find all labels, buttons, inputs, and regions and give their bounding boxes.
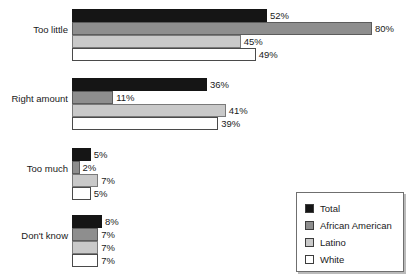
bar-don-t-know-total[interactable] <box>72 215 102 228</box>
legend-label: Latino <box>320 237 346 248</box>
bar-too-much-white[interactable] <box>72 187 91 200</box>
bar-value-label: 49% <box>256 48 278 61</box>
legend-item-white[interactable]: White <box>305 251 344 268</box>
legend-label: African American <box>320 220 392 231</box>
bar-value-label: 11% <box>113 91 134 104</box>
chart-title-cropped <box>0 0 411 6</box>
bar-value-label: 39% <box>218 117 240 130</box>
legend-item-latino[interactable]: Latino <box>305 234 346 251</box>
bar-value-label: 45% <box>241 35 263 48</box>
bar-value-label: 7% <box>98 228 115 241</box>
category-label-right-amount: Right amount <box>0 93 68 104</box>
bar-value-label: 7% <box>98 254 115 267</box>
bar-value-label: 5% <box>91 187 108 200</box>
bar-row: 39% <box>72 117 411 130</box>
legend-swatch-icon-white <box>305 255 314 264</box>
bar-value-label: 5% <box>91 148 108 161</box>
bar-row: 41% <box>72 104 411 117</box>
bar-row: 11% <box>72 91 411 104</box>
bar-too-little-latino[interactable] <box>72 35 241 48</box>
bar-value-label: 80% <box>372 22 394 35</box>
bar-row: 5% <box>72 148 411 161</box>
legend-label: Total <box>320 203 340 214</box>
bar-value-label: 36% <box>207 78 229 91</box>
bar-don-t-know-white[interactable] <box>72 254 98 267</box>
bar-too-little-total[interactable] <box>72 9 267 22</box>
bar-value-label: 7% <box>98 174 115 187</box>
chart-legend: TotalAfrican AmericanLatinoWhite <box>296 192 404 272</box>
category-label-too-much: Too much <box>0 163 68 174</box>
bar-right-amount-latino[interactable] <box>72 104 226 117</box>
bar-chart: Too little52%80%45%49%Right amount36%11%… <box>0 0 411 279</box>
legend-label: White <box>320 254 344 265</box>
bar-row: 36% <box>72 78 411 91</box>
legend-item-african-american[interactable]: African American <box>305 217 392 234</box>
bar-too-much-latino[interactable] <box>72 174 98 187</box>
bar-don-t-know-latino[interactable] <box>72 241 98 254</box>
bar-value-label: 8% <box>102 215 119 228</box>
legend-swatch-icon-latino <box>305 238 314 247</box>
bar-row: 49% <box>72 48 411 61</box>
bar-row: 80% <box>72 22 411 35</box>
bar-value-label: 41% <box>226 104 248 117</box>
legend-swatch-icon-african-american <box>305 221 314 230</box>
bar-value-label: 2% <box>80 161 97 174</box>
bar-don-t-know-african-american[interactable] <box>72 228 98 241</box>
bar-value-label: 52% <box>267 9 289 22</box>
bar-row: 52% <box>72 9 411 22</box>
bar-too-little-white[interactable] <box>72 48 256 61</box>
category-label-don-t-know: Don't know <box>0 230 68 241</box>
legend-item-total[interactable]: Total <box>305 200 340 217</box>
bar-too-little-african-american[interactable] <box>72 22 372 35</box>
bar-right-amount-african-american[interactable] <box>72 91 113 104</box>
bar-row: 45% <box>72 35 411 48</box>
category-label-too-little: Too little <box>0 24 68 35</box>
bar-too-much-african-american[interactable] <box>72 161 80 174</box>
bar-right-amount-total[interactable] <box>72 78 207 91</box>
bar-row: 2% <box>72 161 411 174</box>
bar-value-label: 7% <box>98 241 115 254</box>
bar-right-amount-white[interactable] <box>72 117 218 130</box>
bar-row: 7% <box>72 174 411 187</box>
legend-swatch-icon-total <box>305 204 314 213</box>
bar-too-much-total[interactable] <box>72 148 91 161</box>
